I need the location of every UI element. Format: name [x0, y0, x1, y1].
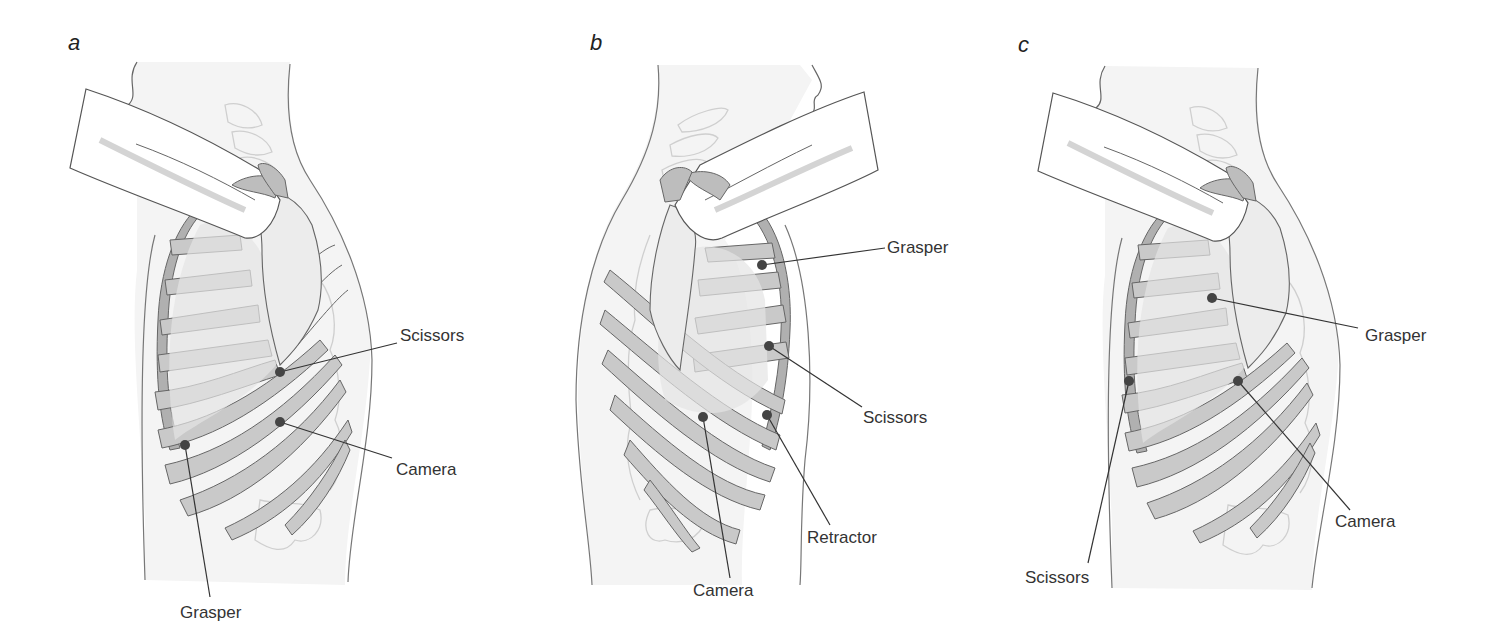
port-camera-dot: [275, 417, 285, 427]
panel-a: a Scissors Camera Grasper: [0, 0, 500, 630]
thorax-illustration-right-lateral: [500, 0, 1000, 630]
label-grasper: Grasper: [887, 238, 948, 258]
port-grasper-dot: [180, 440, 190, 450]
panel-letter: c: [1018, 32, 1029, 58]
label-grasper: Grasper: [1365, 326, 1426, 346]
label-grasper: Grasper: [180, 603, 241, 623]
thorax-illustration-left-lateral: [0, 0, 500, 630]
thorax-illustration-left-lateral: [1000, 0, 1510, 630]
label-camera: Camera: [396, 460, 456, 480]
label-scissors: Scissors: [400, 326, 464, 346]
label-camera: Camera: [693, 581, 753, 601]
label-camera: Camera: [1335, 512, 1395, 532]
label-scissors: Scissors: [1025, 568, 1089, 588]
port-scissors-dot: [275, 367, 285, 377]
label-retractor: Retractor: [807, 528, 877, 548]
panel-letter: a: [68, 30, 80, 56]
panel-letter: b: [590, 30, 602, 56]
panel-c: c Grasper Camera Scissors: [1000, 0, 1510, 630]
label-scissors: Scissors: [863, 408, 927, 428]
panel-b: b Grasper Scissors Retractor Camera: [500, 0, 1000, 630]
